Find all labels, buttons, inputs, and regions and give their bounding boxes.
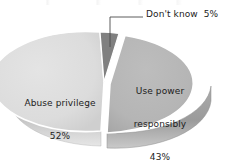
- slice-label-use-power-value: 43%: [128, 152, 192, 163]
- pie-chart: Abuse privilege 52% Use power responsibl…: [0, 0, 233, 167]
- slice-label-use-power-responsibly: Use power responsibly 43%: [128, 64, 192, 167]
- slice-label-use-power-line1: Use power: [128, 86, 192, 97]
- slice-label-dont-know: Don't know 5%: [146, 9, 218, 20]
- slice-label-abuse-privilege: Abuse privilege 52%: [14, 76, 106, 164]
- slice-label-abuse-privilege-name: Abuse privilege: [14, 98, 106, 109]
- slice-label-use-power-line2: responsibly: [128, 119, 192, 130]
- slice-label-abuse-privilege-value: 52%: [14, 131, 106, 142]
